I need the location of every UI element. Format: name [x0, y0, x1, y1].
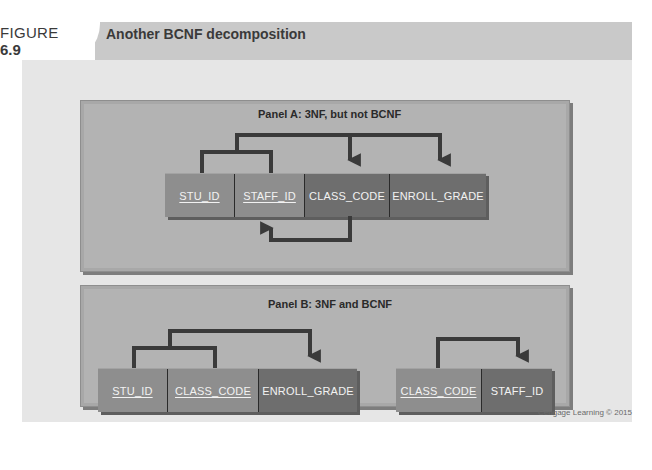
dependency-line-b1: [134, 348, 215, 368]
dependency-line-a1: [202, 152, 271, 173]
dependency-line-a2: [237, 135, 440, 160]
copyright-credit: Cengage Learning © 2015: [538, 408, 632, 417]
dependency-arrow-staff-id-b: [438, 339, 518, 368]
dependency-arrow-enroll-grade-b: [170, 331, 310, 356]
dependency-arrows: [0, 0, 652, 470]
dependency-arrow-staff-id: [271, 216, 350, 240]
